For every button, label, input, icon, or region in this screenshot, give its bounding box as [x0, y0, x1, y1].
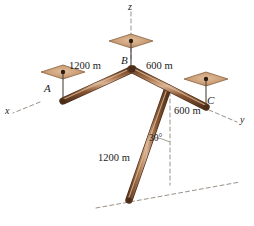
statics-figure: x y z A B C 1200 m 600 m 600 m 1200 m 30…: [0, 0, 254, 226]
joint-b-label: B: [121, 55, 128, 66]
dim-bd-label: 1200 m: [98, 153, 130, 164]
joint-a-label: A: [44, 83, 51, 94]
figure-canvas: [0, 0, 254, 226]
plate-c-dot: [204, 77, 208, 81]
joint-d-node: [126, 197, 131, 202]
member-bd: [128, 88, 168, 200]
dim-bc-lower-label: 600 m: [174, 106, 201, 117]
dim-ab-label: 1200 m: [69, 61, 101, 72]
joint-c-label: C: [207, 95, 214, 106]
plate-a-dot: [61, 70, 65, 74]
member-bc: [131, 68, 206, 108]
joint-a-node: [60, 98, 65, 103]
joint-b-node: [129, 66, 136, 73]
dim-bc-upper-label: 600 m: [146, 61, 173, 72]
angle-30-label: 30°: [149, 134, 162, 144]
z-axis-label: z: [128, 2, 132, 12]
x-axis-line: [13, 102, 40, 113]
x-axis-label: x: [5, 106, 9, 116]
ground-line: [96, 182, 240, 208]
y-axis-label: y: [240, 115, 244, 125]
y-axis-line: [209, 110, 237, 122]
plate-b-dot: [129, 39, 133, 43]
